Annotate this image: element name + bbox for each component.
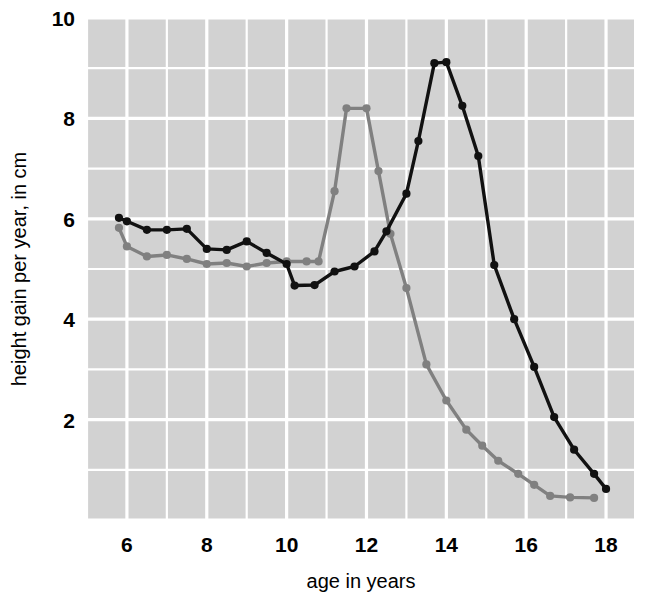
data-point-girls bbox=[314, 257, 322, 265]
data-point-girls bbox=[494, 457, 502, 465]
data-point-boys bbox=[115, 214, 123, 222]
data-point-girls bbox=[342, 104, 350, 112]
data-point-girls bbox=[223, 259, 231, 267]
data-point-girls bbox=[566, 493, 574, 501]
data-point-girls bbox=[514, 470, 522, 478]
x-tick-label: 10 bbox=[275, 533, 298, 556]
data-point-girls bbox=[590, 494, 598, 502]
x-tick-label: 6 bbox=[121, 533, 133, 556]
data-point-boys bbox=[283, 260, 291, 268]
data-point-girls bbox=[203, 260, 211, 268]
x-axis-title: age in years bbox=[307, 570, 416, 592]
x-axis-tick-labels: 681012141618 bbox=[121, 533, 618, 556]
data-point-girls bbox=[263, 259, 271, 267]
data-point-boys bbox=[414, 137, 422, 145]
data-point-boys bbox=[203, 245, 211, 253]
data-point-girls bbox=[462, 426, 470, 434]
data-point-boys bbox=[430, 59, 438, 67]
data-point-girls bbox=[330, 187, 338, 195]
data-point-girls bbox=[123, 242, 131, 250]
data-point-girls bbox=[303, 257, 311, 265]
x-tick-label: 16 bbox=[515, 533, 538, 556]
data-point-boys bbox=[442, 58, 450, 66]
x-tick-label: 8 bbox=[201, 533, 213, 556]
data-point-boys bbox=[350, 262, 358, 270]
data-point-girls bbox=[530, 481, 538, 489]
data-point-boys bbox=[382, 227, 390, 235]
x-tick-label: 12 bbox=[355, 533, 378, 556]
data-point-boys bbox=[458, 102, 466, 110]
data-point-boys bbox=[330, 267, 338, 275]
data-point-girls bbox=[442, 396, 450, 404]
data-point-boys bbox=[370, 247, 378, 255]
data-point-girls bbox=[402, 284, 410, 292]
y-tick-label: 4 bbox=[63, 308, 75, 331]
data-point-boys bbox=[550, 413, 558, 421]
data-point-boys bbox=[490, 261, 498, 269]
data-point-boys bbox=[263, 249, 271, 257]
data-point-boys bbox=[143, 226, 151, 234]
data-point-boys bbox=[474, 152, 482, 160]
data-point-boys bbox=[590, 470, 598, 478]
y-tick-label: 6 bbox=[63, 208, 75, 231]
data-point-girls bbox=[143, 252, 151, 260]
data-point-girls bbox=[374, 167, 382, 175]
x-tick-label: 18 bbox=[594, 533, 618, 556]
data-point-boys bbox=[310, 281, 318, 289]
y-axis-title: height gain per year, in cm bbox=[8, 152, 30, 387]
data-point-boys bbox=[510, 315, 518, 323]
data-point-girls bbox=[183, 255, 191, 263]
y-tick-label: 2 bbox=[63, 409, 75, 432]
data-point-boys bbox=[163, 226, 171, 234]
data-point-boys bbox=[291, 281, 299, 289]
data-point-girls bbox=[422, 360, 430, 368]
y-tick-label: 8 bbox=[63, 107, 75, 130]
data-point-boys bbox=[243, 237, 251, 245]
growth-velocity-chart: 681012141618 246810 age in years height … bbox=[0, 0, 645, 602]
data-point-boys bbox=[402, 190, 410, 198]
data-point-boys bbox=[183, 225, 191, 233]
data-point-girls bbox=[478, 442, 486, 450]
data-point-boys bbox=[570, 446, 578, 454]
data-point-boys bbox=[123, 217, 131, 225]
chart-canvas: 681012141618 246810 age in years height … bbox=[0, 0, 645, 602]
data-point-girls bbox=[243, 262, 251, 270]
data-point-boys bbox=[223, 246, 231, 254]
data-point-girls bbox=[115, 224, 123, 232]
data-point-girls bbox=[163, 251, 171, 259]
data-point-boys bbox=[602, 485, 610, 493]
x-tick-label: 14 bbox=[435, 533, 459, 556]
data-point-boys bbox=[530, 363, 538, 371]
y-tick-label: 10 bbox=[52, 7, 75, 30]
data-point-girls bbox=[546, 492, 554, 500]
data-point-girls bbox=[362, 104, 370, 112]
y-axis-tick-labels: 246810 bbox=[52, 7, 76, 432]
